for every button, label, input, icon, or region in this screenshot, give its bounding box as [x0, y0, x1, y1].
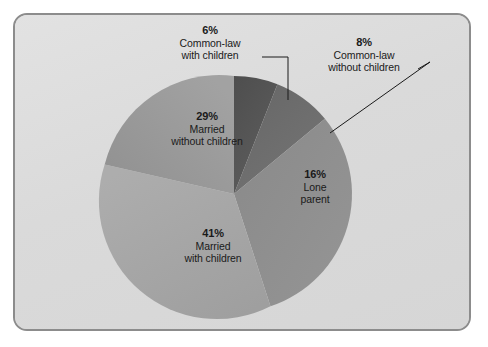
- pie-chart-figure: 6% Common-law with children 8% Common-la…: [0, 0, 488, 347]
- pie-label-line1: Married: [148, 123, 266, 136]
- pie-label-percent: 29%: [148, 110, 266, 123]
- pie-label-percent: 41%: [158, 227, 268, 240]
- pie-label-line2: with children: [158, 252, 268, 265]
- pie-label-line2: with children: [150, 49, 270, 62]
- pie-label-lone-parent: 16% Lone parent: [282, 168, 348, 206]
- pie-label-line2: without children: [302, 61, 426, 74]
- pie-label-percent: 8%: [302, 36, 426, 49]
- pie-label-line2: without children: [148, 135, 266, 148]
- pie-label-line1: Lone: [282, 181, 348, 194]
- pie-label-line1: Common-law: [150, 37, 270, 50]
- pie-label-common-law-without-children: 8% Common-law without children: [302, 36, 426, 74]
- pie-label-married-without-children: 29% Married without children: [148, 110, 266, 148]
- pie-label-percent: 16%: [282, 168, 348, 181]
- pie-label-line1: Married: [158, 240, 268, 253]
- pie-label-common-law-with-children: 6% Common-law with children: [150, 24, 270, 62]
- pie-label-line1: Common-law: [302, 49, 426, 62]
- pie-label-line2: parent: [282, 193, 348, 206]
- pie-label-percent: 6%: [150, 24, 270, 37]
- pie-label-married-with-children: 41% Married with children: [158, 227, 268, 265]
